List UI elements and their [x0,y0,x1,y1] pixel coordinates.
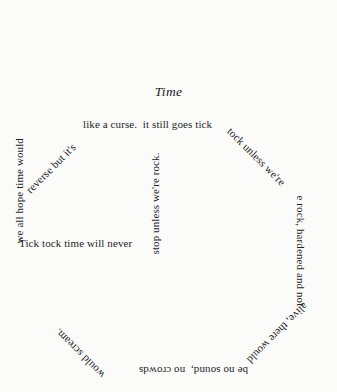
poem-segment-right-vertical: e rock, hardened and not [295,196,306,307]
poem-segment-inner-vertical: stop unless we're rock. [150,152,161,254]
poem-segment-lower-right-diagonal: alive, there would [245,301,310,366]
poem-segment-lower-left-diagonal: would scream. [53,326,107,380]
poem-segment-upper-left-diagonal: reverse but it's [24,141,78,195]
poem-segment-left-vertical: we all hope time would [14,138,25,243]
poem-segment-left-horizontal: Tick tock time will never [19,238,132,249]
poem-segment-top-horizontal: like a curse. it still goes tick [83,119,212,130]
poem-canvas: Time Tick tock time will never stop unle… [0,0,337,392]
page-title: Time [0,84,337,100]
poem-segment-upper-right-diagonal: tock unless we're [225,126,287,188]
poem-segment-bottom-horizontal: be no sound, no crowds [139,365,248,376]
